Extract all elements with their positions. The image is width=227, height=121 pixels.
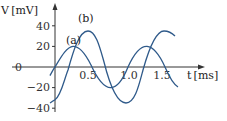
y-axis: V [mV] 40 20 0 −20 −40 xyxy=(0,3,58,115)
y-axis-title: V [mV] xyxy=(0,4,38,17)
y-tick-40: 40 xyxy=(36,20,50,33)
y-tick-neg40: −40 xyxy=(27,102,50,115)
x-axis: 0.5 1.0 1.5 t [ms] xyxy=(12,65,218,83)
voltage-time-chart: V [mV] 40 20 0 −20 −40 0.5 1.0 1.5 t [ms… xyxy=(0,0,227,121)
x-tick-1-5: 1.5 xyxy=(153,69,171,82)
curve-a-label: (a) xyxy=(66,34,81,47)
y-axis-arrow-icon xyxy=(53,3,58,10)
x-tick-1-0: 1.0 xyxy=(120,69,138,82)
x-axis-title: t [ms] xyxy=(187,69,218,82)
curve-b-label: (b) xyxy=(78,12,94,25)
y-tick-20: 20 xyxy=(36,40,50,53)
y-tick-neg20: −20 xyxy=(27,81,50,94)
